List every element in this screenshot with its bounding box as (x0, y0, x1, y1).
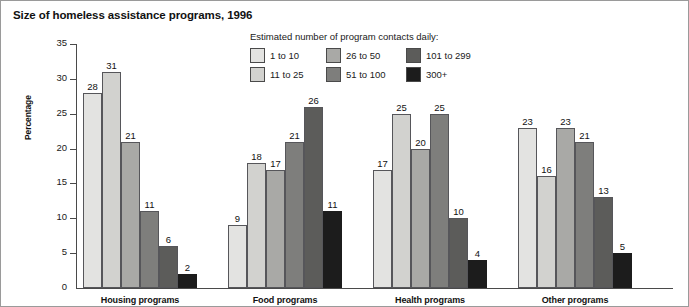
bar[interactable]: 25 (392, 114, 411, 288)
bar[interactable]: 18 (247, 163, 266, 288)
x-axis-category-label: Food programs (228, 295, 342, 305)
bar-value-label: 28 (87, 81, 98, 92)
bar-value-label: 25 (396, 102, 407, 113)
bar-value-label: 21 (579, 130, 590, 141)
x-axis-line (76, 288, 673, 289)
plot-area: 2831211162918172126111725202510423162321… (77, 44, 673, 288)
bar-value-label: 20 (415, 137, 426, 148)
bar-group: 91817212611 (228, 44, 343, 288)
bar[interactable]: 31 (102, 72, 121, 288)
y-axis-tick-label: 5 (27, 246, 67, 257)
bar-group: 23162321135 (518, 44, 633, 288)
bar[interactable]: 20 (411, 149, 430, 288)
bar[interactable]: 10 (449, 218, 468, 288)
bar[interactable]: 16 (537, 176, 556, 288)
legend-title: Estimated number of program contacts dai… (250, 31, 510, 42)
bar[interactable]: 11 (323, 211, 342, 288)
bar-value-label: 21 (289, 130, 300, 141)
bar[interactable]: 2 (178, 274, 197, 288)
bar-group: 17252025104 (373, 44, 488, 288)
bar-value-label: 4 (475, 248, 480, 259)
bar[interactable]: 26 (304, 107, 323, 288)
bar-group: 2831211162 (83, 44, 198, 288)
bar-value-label: 23 (522, 116, 533, 127)
bar-value-label: 18 (251, 151, 262, 162)
bar[interactable]: 23 (556, 128, 575, 288)
bar-value-label: 13 (598, 185, 609, 196)
bar[interactable]: 4 (468, 260, 487, 288)
bar-value-label: 31 (106, 60, 117, 71)
bar-value-label: 17 (270, 158, 281, 169)
x-axis-category-label: Health programs (373, 295, 487, 305)
bar[interactable]: 21 (121, 142, 140, 288)
bar-value-label: 17 (377, 158, 388, 169)
bar-value-label: 26 (308, 95, 319, 106)
bar[interactable]: 23 (518, 128, 537, 288)
chart-title: Size of homeless assistance programs, 19… (13, 9, 252, 21)
bar[interactable]: 6 (159, 246, 178, 288)
bar-value-label: 2 (185, 262, 190, 273)
bar[interactable]: 13 (594, 197, 613, 288)
bar-value-label: 11 (145, 199, 155, 210)
bar-value-label: 25 (434, 102, 445, 113)
bar-value-label: 5 (620, 241, 625, 252)
bar[interactable]: 25 (430, 114, 449, 288)
bar-value-label: 23 (560, 116, 571, 127)
bar-value-label: 9 (235, 213, 240, 224)
chart-figure: Size of homeless assistance programs, 19… (0, 0, 689, 307)
bar[interactable]: 21 (575, 142, 594, 288)
x-axis-category-label: Other programs (518, 295, 632, 305)
bar[interactable]: 21 (285, 142, 304, 288)
bar[interactable]: 11 (140, 211, 159, 288)
y-axis-tick-label: 0 (27, 281, 67, 292)
y-axis-tick-label: 15 (27, 176, 67, 187)
bar[interactable]: 28 (83, 93, 102, 288)
bar-value-label: 10 (453, 206, 464, 217)
bar[interactable]: 17 (373, 170, 392, 289)
y-axis-tick-label: 20 (27, 142, 67, 153)
y-axis-tick-label: 10 (27, 211, 67, 222)
bar-value-label: 11 (328, 199, 338, 210)
bar-value-label: 21 (125, 130, 136, 141)
y-axis-tick-label: 25 (27, 107, 67, 118)
bar[interactable]: 9 (228, 225, 247, 288)
x-axis-category-label: Housing programs (83, 295, 197, 305)
bar[interactable]: 17 (266, 170, 285, 289)
y-axis-tick-label: 30 (27, 72, 67, 83)
bar[interactable]: 5 (613, 253, 632, 288)
bar-value-label: 6 (166, 234, 171, 245)
y-axis-tick-label: 35 (27, 37, 67, 48)
bar-value-label: 16 (541, 164, 552, 175)
